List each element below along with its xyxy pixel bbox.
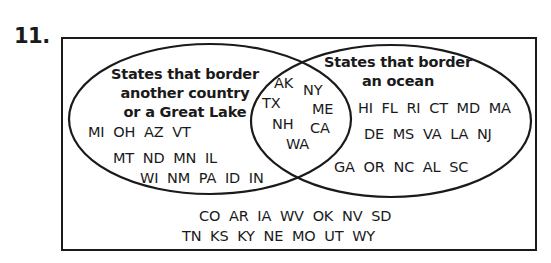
- intersection-state: ME: [312, 101, 333, 117]
- right-set-title: States that border an ocean: [318, 53, 478, 91]
- left-set-title-line: or a Great Lake: [105, 103, 265, 122]
- left-only-row: MT ND MN IL: [113, 150, 217, 166]
- intersection-state: AK: [274, 75, 293, 91]
- right-only-row: HI FL RI CT MD MA: [358, 100, 511, 116]
- right-set-title-line: an ocean: [318, 72, 478, 91]
- intersection-state: TX: [262, 95, 280, 111]
- intersection-state: CA: [310, 120, 330, 136]
- intersection-state: NH: [272, 116, 293, 132]
- left-set-title-line: another country: [105, 84, 265, 103]
- left-set-title-line: States that border: [105, 65, 265, 84]
- outside-row: CO AR IA WV OK NV SD: [199, 208, 391, 224]
- intersection-state: WA: [286, 136, 309, 152]
- right-only-row: DE MS VA LA NJ: [364, 126, 492, 142]
- right-only-row: GA OR NC AL SC: [334, 159, 468, 175]
- outside-row: TN KS KY NE MO UT WY: [182, 228, 375, 244]
- left-set-title: States that border another country or a …: [105, 65, 265, 122]
- intersection-state: NY: [303, 82, 322, 98]
- left-only-row: MI OH AZ VT: [88, 124, 191, 140]
- right-set-title-line: States that border: [318, 53, 478, 72]
- left-only-row: WI NM PA ID IN: [140, 170, 264, 186]
